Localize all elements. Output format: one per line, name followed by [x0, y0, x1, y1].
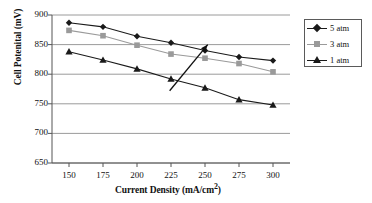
data-marker-triangle — [65, 48, 72, 54]
chart-legend: 5 atm 3 atm 1 atm — [304, 19, 362, 67]
data-marker-diamond — [236, 54, 242, 60]
legend-item-5atm: 5 atm — [305, 20, 361, 36]
data-marker-square — [134, 42, 140, 48]
legend-label-5atm: 5 atm — [330, 23, 349, 33]
legend-swatch-5atm — [307, 22, 327, 34]
triangle-icon — [313, 56, 321, 63]
data-marker-square — [66, 28, 72, 34]
data-marker-diamond — [66, 19, 72, 25]
legend-swatch-3atm — [307, 38, 327, 50]
data-marker-square — [236, 61, 242, 67]
data-marker-diamond — [168, 40, 174, 46]
data-marker-diamond — [134, 33, 140, 39]
data-marker-square — [270, 69, 276, 75]
legend-item-3atm: 3 atm — [305, 36, 361, 52]
series-line-3-atm — [69, 30, 273, 71]
legend-label-3atm: 3 atm — [330, 39, 349, 49]
chart-figure: Cell Potenital (mV) Current Density (mA/… — [0, 0, 372, 203]
data-marker-square — [100, 33, 106, 39]
data-marker-diamond — [100, 24, 106, 30]
data-marker-square — [202, 55, 208, 61]
legend-swatch-1atm — [307, 54, 327, 66]
data-marker-diamond — [270, 57, 276, 63]
legend-item-1atm: 1 atm — [305, 52, 361, 68]
legend-label-1atm: 1 atm — [330, 55, 349, 65]
data-marker-square — [168, 51, 174, 57]
